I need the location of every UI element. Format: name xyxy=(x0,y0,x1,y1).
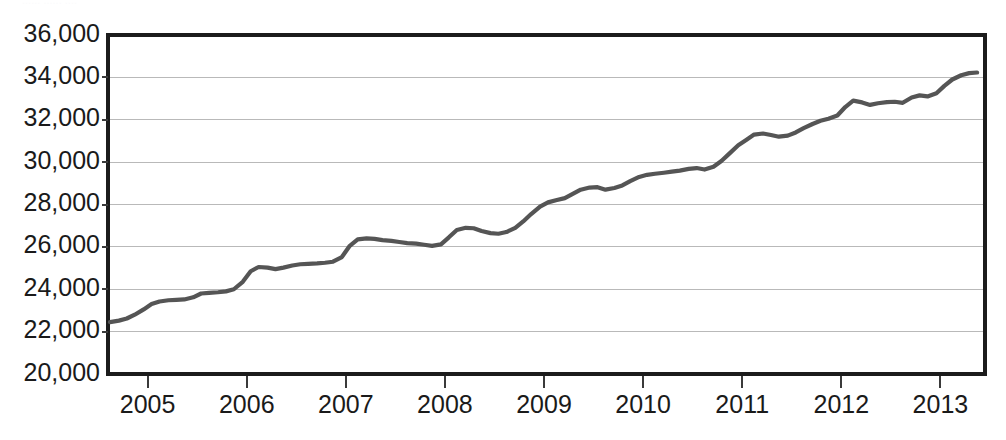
ytick-label-30000: 30,000 xyxy=(24,146,100,174)
data-line-1 xyxy=(110,73,977,323)
ytick-label-36000: 36,000 xyxy=(24,19,100,47)
xtick-label-2005: 2005 xyxy=(120,390,176,418)
ytick-label-34000: 34,000 xyxy=(24,61,100,89)
ytick-label-26000: 26,000 xyxy=(24,230,100,258)
ytick-label-22000: 22,000 xyxy=(24,315,100,343)
ytick-label-28000: 28,000 xyxy=(24,188,100,216)
xtick-label-2006: 2006 xyxy=(219,390,275,418)
cropped-title-fragment: ...... ...... .... xyxy=(22,0,262,6)
ytick-label-32000: 32,000 xyxy=(24,103,100,131)
x-axis-labels: 200520062007200820092010201120122013 xyxy=(120,390,968,418)
x-axis-ticks xyxy=(148,376,941,388)
ytick-label-24000: 24,000 xyxy=(24,273,100,301)
ytick-label-20000: 20,000 xyxy=(24,358,100,386)
xtick-label-2008: 2008 xyxy=(417,390,473,418)
xtick-label-2009: 2009 xyxy=(516,390,572,418)
line-chart: 20,00022,00024,00026,00028,00030,00032,0… xyxy=(0,0,1006,440)
xtick-label-2012: 2012 xyxy=(813,390,869,418)
xtick-label-2011: 2011 xyxy=(715,390,769,418)
xtick-label-2007: 2007 xyxy=(318,390,374,418)
y-axis-labels: 20,00022,00024,00026,00028,00030,00032,0… xyxy=(24,19,108,386)
data-series xyxy=(110,73,977,323)
xtick-label-2010: 2010 xyxy=(615,390,671,418)
chart-container: ...... ...... .... 20,00022,00024,00026,… xyxy=(0,0,1006,440)
xtick-label-2013: 2013 xyxy=(913,390,969,418)
